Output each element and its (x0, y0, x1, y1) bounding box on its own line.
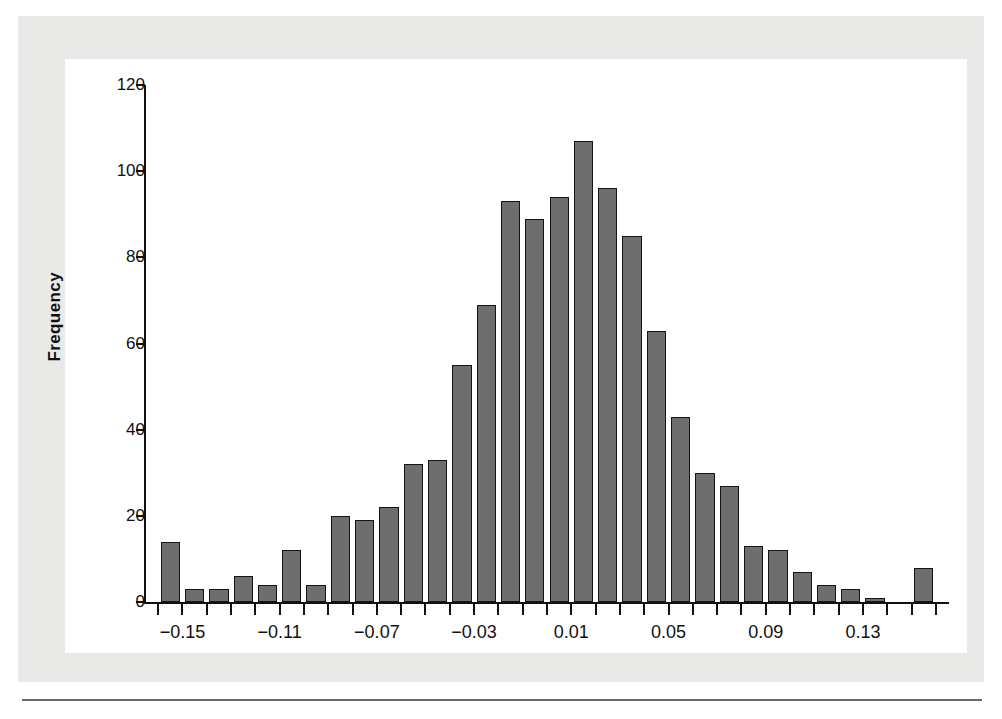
bottom-rule (22, 699, 982, 701)
plot-card (65, 59, 967, 653)
figure-frame (18, 16, 984, 682)
